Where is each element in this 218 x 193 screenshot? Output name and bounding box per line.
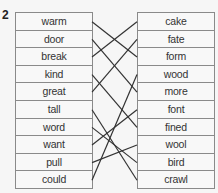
connection-line-could-wood bbox=[92, 75, 137, 181]
connection-line-word-bird bbox=[92, 127, 137, 162]
connection-line-pull-wool bbox=[92, 145, 137, 163]
connection-lines bbox=[0, 0, 218, 193]
